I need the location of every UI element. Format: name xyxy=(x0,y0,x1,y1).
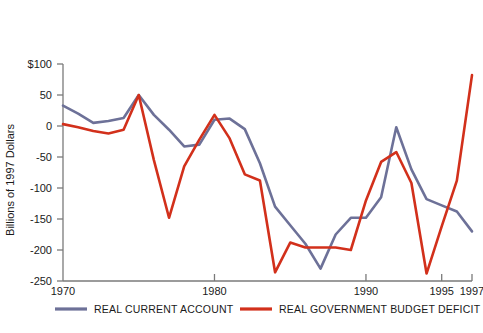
y-tick-label: 50 xyxy=(40,89,52,101)
y-axis-title: Billions of 1997 Dollars xyxy=(4,124,16,236)
x-tick-label: 1995 xyxy=(429,285,453,297)
y-axis-title-text: Billions of 1997 Dollars xyxy=(4,124,16,236)
line-chart: Billions of 1997 Dollars $100500-50-100-… xyxy=(0,0,483,333)
x-tick-label: 1990 xyxy=(354,285,378,297)
chart-legend: REAL CURRENT ACCOUNTREAL GOVERNMENT BUDG… xyxy=(55,303,481,315)
x-tick-label: 1970 xyxy=(51,285,75,297)
y-tick-label: $100 xyxy=(28,58,52,70)
x-tick-label: 1980 xyxy=(202,285,226,297)
legend-label-0: REAL CURRENT ACCOUNT xyxy=(94,303,234,315)
y-tick-label: -150 xyxy=(30,213,52,225)
legend-label-1: REAL GOVERNMENT BUDGET DEFICIT xyxy=(279,303,481,315)
data-series-group xyxy=(63,75,472,273)
x-tick-label: 1997 xyxy=(460,285,483,297)
y-axis-ticks: $100500-50-100-150-200-250 xyxy=(28,58,63,287)
y-tick-label: -100 xyxy=(30,182,52,194)
x-axis-ticks: 19701980199019951997 xyxy=(51,274,483,297)
chart-container: Billions of 1997 Dollars $100500-50-100-… xyxy=(0,0,483,333)
y-tick-label: 0 xyxy=(46,120,52,132)
y-tick-label: -200 xyxy=(30,244,52,256)
y-tick-label: -250 xyxy=(30,275,52,287)
y-tick-label: -50 xyxy=(36,151,52,163)
series-line-budget-deficit xyxy=(63,75,472,273)
